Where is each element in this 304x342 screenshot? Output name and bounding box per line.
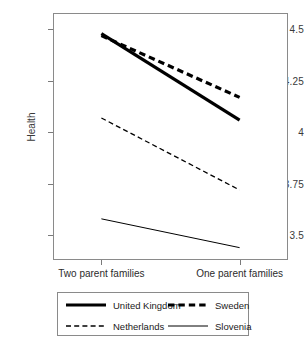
chart-figure: Health 4.54.2543.753.5 Two parent famili… xyxy=(0,0,304,342)
chart-legend: United KingdomSwedenNetherlandsSlovenia xyxy=(57,292,249,336)
legend-item[interactable]: Netherlands xyxy=(64,315,154,337)
legend-item[interactable]: United Kingdom xyxy=(64,294,154,316)
plot-area xyxy=(53,13,288,260)
legend-label: Sweden xyxy=(210,300,249,311)
legend-swatch-netherlands xyxy=(64,320,108,332)
legend-swatch-slovenia xyxy=(166,320,210,332)
x-tick-label: One parent families xyxy=(196,268,283,279)
legend-label: Netherlands xyxy=(108,321,164,332)
x-tick-mark xyxy=(101,260,102,265)
legend-item[interactable]: Sweden xyxy=(166,294,250,316)
legend-label: Slovenia xyxy=(210,321,251,332)
legend-item[interactable]: Slovenia xyxy=(166,315,250,337)
x-tick-mark xyxy=(240,260,241,265)
x-tick-label: Two parent families xyxy=(58,268,144,279)
legend-swatch-sweden xyxy=(166,299,210,311)
y-axis-label: Health xyxy=(26,113,37,142)
legend-swatch-united-kingdom xyxy=(64,299,108,311)
